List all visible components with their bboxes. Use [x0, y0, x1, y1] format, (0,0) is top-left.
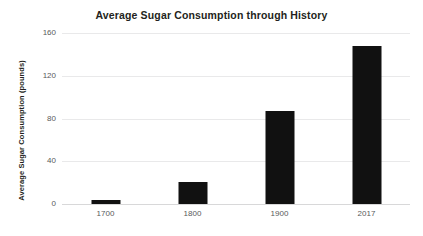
x-tick-label: 2017	[358, 209, 376, 219]
gridline	[62, 204, 410, 205]
plot-area	[62, 33, 410, 204]
y-tick-label: 120	[16, 72, 56, 80]
y-tick-label: 0	[16, 200, 56, 208]
bar[interactable]	[178, 182, 207, 204]
x-tick-label: 1900	[271, 209, 289, 219]
chart-title: Average Sugar Consumption through Histor…	[0, 9, 423, 21]
x-tick-label: 1800	[184, 209, 202, 219]
bar[interactable]	[91, 200, 120, 204]
bar-slot	[149, 33, 236, 204]
bars-layer	[62, 33, 410, 204]
bar-slot	[236, 33, 323, 204]
bar-slot	[62, 33, 149, 204]
bar-chart: Average Sugar Consumption through Histor…	[0, 0, 423, 236]
y-tick-label: 40	[16, 157, 56, 165]
bar[interactable]	[265, 111, 294, 204]
x-axis-tick-labels: 1700180019002017	[62, 209, 410, 223]
y-tick-label: 80	[16, 115, 56, 123]
bar[interactable]	[352, 46, 381, 204]
x-tick-label: 1700	[97, 209, 115, 219]
y-axis-tick-labels: 04080120160	[10, 33, 56, 204]
y-tick-label: 160	[16, 29, 56, 37]
bar-slot	[323, 33, 410, 204]
